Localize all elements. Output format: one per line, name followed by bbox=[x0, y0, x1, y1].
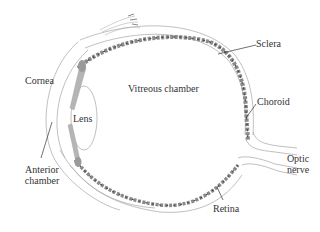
ciliary-body-lower bbox=[75, 157, 82, 167]
label-lens: Lens bbox=[73, 113, 92, 124]
label-anterior-chamber: Anterior chamber bbox=[18, 164, 66, 186]
label-optic-line2: nerve bbox=[279, 164, 317, 175]
sclera-outer-outline bbox=[80, 26, 253, 135]
muscle-fibers bbox=[100, 16, 140, 35]
choroid-band-bottom bbox=[75, 160, 238, 205]
iris-upper bbox=[70, 65, 86, 110]
label-choroid: Choroid bbox=[257, 96, 290, 107]
label-vitreous-chamber: Vitreous chamber bbox=[128, 83, 199, 94]
label-optic-line1: Optic bbox=[279, 153, 317, 164]
label-anterior-line2: chamber bbox=[18, 175, 66, 186]
optic-nerve-upper-outline-2 bbox=[253, 132, 297, 148]
label-optic-nerve: Optic nerve bbox=[279, 153, 317, 175]
label-anterior-line1: Anterior bbox=[18, 164, 66, 175]
label-cornea: Cornea bbox=[25, 75, 54, 86]
muscle-fiber-tips bbox=[128, 14, 138, 25]
label-retina: Retina bbox=[213, 203, 239, 214]
sclera-bottom-outline-2 bbox=[70, 165, 155, 208]
ciliary-body-upper bbox=[78, 60, 86, 72]
label-sclera: Sclera bbox=[256, 38, 281, 49]
eye-diagram bbox=[0, 0, 320, 232]
iris-lower bbox=[68, 124, 80, 162]
